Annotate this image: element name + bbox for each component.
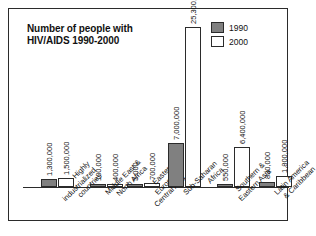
bar-wrapper: 100,000	[90, 184, 106, 187]
bar-wrapper: 25,300,000	[185, 27, 201, 187]
bar-group: 5,000700,000	[124, 9, 162, 187]
bar-value-label: 7,000,000	[173, 107, 181, 140]
bar-value-label: 100,000	[95, 154, 103, 181]
bar-1990[interactable]	[41, 179, 57, 187]
bar-value-label: 830,000	[264, 152, 272, 179]
chart-frame: Number of people with HIV/AIDS 1990-2000…	[8, 8, 288, 221]
bar-group: 7,000,00025,300,000	[165, 9, 203, 187]
bar-value-label: 6,400,000	[239, 111, 247, 144]
bar-value-label: 1,500,000	[63, 142, 71, 175]
bar-value-label: 1,300,000	[46, 143, 54, 176]
bar-group: 100,000400,000	[87, 9, 125, 187]
bar-1990[interactable]	[127, 184, 143, 187]
bar-wrapper: 5,000	[127, 184, 143, 187]
bar-group: 550,0006,400,000	[214, 9, 252, 187]
bar-wrapper: 7,000,000	[168, 143, 184, 187]
bar-wrapper: 1,300,000	[41, 179, 57, 187]
bar-group: 830,0001,800,000	[256, 9, 294, 187]
bar-wrapper: 550,000	[217, 184, 233, 187]
bar-value-label: 5,000	[132, 162, 140, 181]
bar-1990[interactable]	[90, 184, 106, 187]
bar-value-label: 550,000	[222, 154, 230, 181]
bar-1990[interactable]	[217, 184, 233, 187]
bar-wrapper: 830,000	[259, 182, 275, 187]
bar-1990[interactable]	[168, 143, 184, 187]
bar-group: 1,300,0001,500,000	[38, 9, 76, 187]
bar-1990[interactable]	[259, 182, 275, 187]
bar-value-label: 1,800,000	[281, 140, 289, 173]
bar-2000[interactable]	[185, 27, 201, 187]
bar-value-label: 25,300,000	[190, 0, 198, 24]
